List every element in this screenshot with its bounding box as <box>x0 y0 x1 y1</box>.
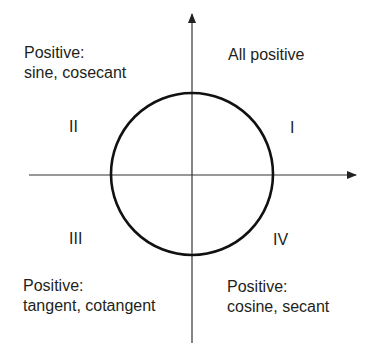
quadrant-1-numeral: I <box>290 118 294 137</box>
quadrant-3-functions: tangent, cotangent <box>23 296 156 315</box>
quadrant-4-functions: cosine, secant <box>227 297 329 316</box>
quadrant-2-numeral: II <box>69 117 78 136</box>
quadrant-1-heading: All positive <box>228 45 304 64</box>
quadrant-2-functions: sine, cosecant <box>24 63 126 82</box>
quadrant-4-heading: Positive: <box>227 277 287 296</box>
quadrant-3-numeral: III <box>69 229 82 248</box>
quadrant-3-heading: Positive: <box>23 276 83 295</box>
quadrant-4-numeral: IV <box>273 230 288 249</box>
quadrant-2-heading: Positive: <box>24 43 84 62</box>
